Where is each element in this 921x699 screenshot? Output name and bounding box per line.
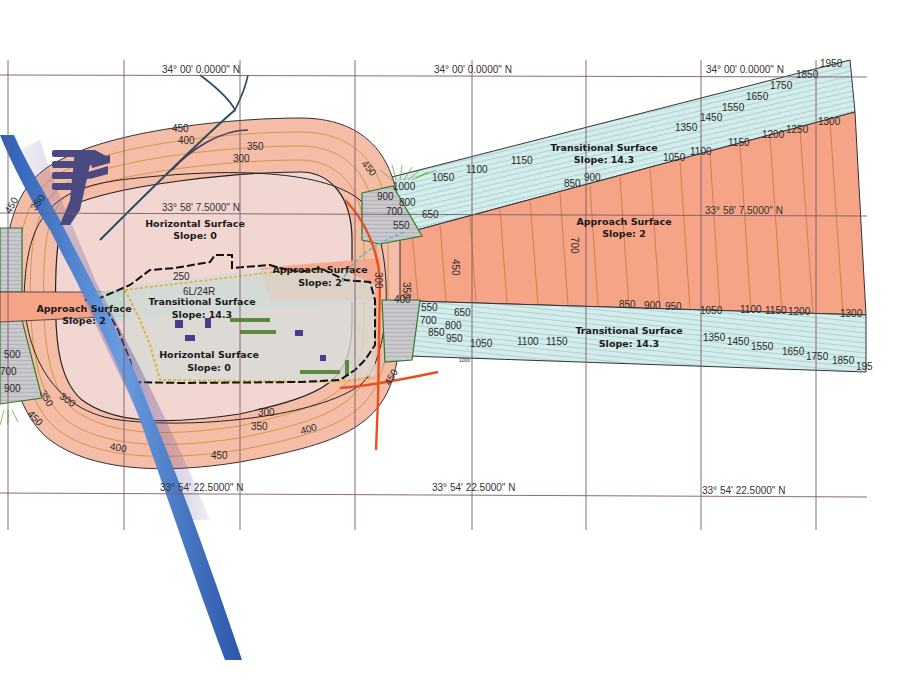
label-approach-right: Approach Surface bbox=[576, 216, 671, 227]
svg-text:700: 700 bbox=[386, 206, 403, 217]
svg-text:300: 300 bbox=[373, 272, 384, 289]
svg-text:250: 250 bbox=[173, 271, 190, 282]
svg-text:1150: 1150 bbox=[511, 155, 533, 166]
svg-text:1250: 1250 bbox=[786, 124, 809, 135]
svg-text:650: 650 bbox=[454, 307, 471, 318]
svg-text:900: 900 bbox=[4, 383, 21, 394]
svg-text:1550: 1550 bbox=[751, 341, 774, 352]
svg-text:1050: 1050 bbox=[700, 305, 723, 316]
road-north bbox=[200, 75, 248, 110]
label-horizontal-top-slope: Slope: 0 bbox=[173, 230, 217, 241]
label-approach-center: Approach Surface bbox=[272, 264, 367, 275]
svg-text:950: 950 bbox=[665, 301, 682, 312]
svg-text:550: 550 bbox=[421, 302, 438, 313]
svg-text:450: 450 bbox=[211, 450, 228, 461]
svg-text:1100: 1100 bbox=[466, 164, 488, 175]
grid-label-top-2: 34° 00' 0.0000" N bbox=[434, 64, 512, 75]
label-approach-left-slope: Slope: 2 bbox=[62, 315, 106, 326]
svg-text:1100: 1100 bbox=[740, 304, 762, 315]
svg-text:1650: 1650 bbox=[782, 346, 805, 357]
svg-text:1150: 1150 bbox=[765, 305, 787, 316]
grid-label-bottom-1: 33° 54' 22.5000" N bbox=[160, 482, 243, 493]
transitional-gray-left-upper bbox=[0, 228, 22, 292]
svg-text:650: 650 bbox=[422, 209, 439, 220]
svg-text:700: 700 bbox=[0, 366, 17, 377]
svg-text:1050: 1050 bbox=[432, 172, 455, 183]
label-transitional-lower-right-slope: Slope: 14.3 bbox=[599, 338, 659, 349]
label-transitional-upper-right-slope: Slope: 14.3 bbox=[574, 154, 634, 165]
label-approach-center-slope: Slope: 2 bbox=[298, 277, 342, 288]
svg-text:900: 900 bbox=[377, 191, 394, 202]
svg-text:195: 195 bbox=[856, 361, 873, 372]
svg-text:1750: 1750 bbox=[806, 351, 829, 362]
svg-text:1300: 1300 bbox=[818, 116, 841, 127]
label-transitional-center-slope: Slope: 14.3 bbox=[172, 309, 232, 320]
svg-text:1350: 1350 bbox=[703, 332, 726, 343]
label-transitional-lower-right: Transitional Surface bbox=[575, 325, 682, 336]
svg-text:1450: 1450 bbox=[700, 112, 723, 123]
svg-text:500: 500 bbox=[4, 349, 21, 360]
grid-label-bottom-2: 33° 54' 22.5000" N bbox=[432, 482, 515, 493]
svg-text:1950: 1950 bbox=[820, 58, 843, 69]
svg-text:550: 550 bbox=[393, 220, 410, 231]
svg-text:1550: 1550 bbox=[722, 102, 745, 113]
svg-text:900: 900 bbox=[584, 172, 601, 183]
svg-text:1200: 1200 bbox=[762, 129, 785, 140]
svg-text:1150: 1150 bbox=[728, 137, 750, 148]
airspace-surfaces-map: 34° 00' 0.0000" N 34° 00' 0.0000" N 34° … bbox=[0, 0, 921, 699]
grid-label-top-1: 34° 00' 0.0000" N bbox=[162, 64, 240, 75]
svg-text:850: 850 bbox=[564, 178, 581, 189]
svg-text:400: 400 bbox=[394, 294, 411, 305]
label-horizontal-bottom-slope: Slope: 0 bbox=[187, 362, 231, 373]
svg-text:1100: 1100 bbox=[690, 146, 712, 157]
svg-text:1300: 1300 bbox=[840, 308, 863, 319]
runway-label: 6L/24R bbox=[183, 286, 215, 297]
label-approach-right-slope: Slope: 2 bbox=[602, 228, 646, 239]
svg-text:1050: 1050 bbox=[470, 338, 493, 349]
svg-text:1150: 1150 bbox=[546, 336, 568, 347]
svg-text:1000: 1000 bbox=[459, 357, 470, 363]
svg-text:350: 350 bbox=[247, 141, 264, 152]
svg-text:900: 900 bbox=[644, 300, 661, 311]
svg-text:400: 400 bbox=[178, 135, 195, 146]
svg-text:1050: 1050 bbox=[663, 152, 686, 163]
svg-text:1100: 1100 bbox=[517, 336, 539, 347]
label-approach-left: Approach Surface bbox=[36, 303, 131, 314]
svg-text:450: 450 bbox=[172, 123, 189, 134]
svg-text:450: 450 bbox=[450, 259, 461, 276]
svg-text:1200: 1200 bbox=[788, 306, 811, 317]
label-horizontal-bottom: Horizontal Surface bbox=[159, 349, 259, 360]
svg-text:300: 300 bbox=[258, 407, 275, 418]
svg-text:950: 950 bbox=[446, 333, 463, 344]
svg-text:1450: 1450 bbox=[727, 336, 750, 347]
label-horizontal-top: Horizontal Surface bbox=[145, 218, 245, 229]
svg-text:800: 800 bbox=[445, 320, 462, 331]
grid-label-mid-2: 33° 58' 7.5000" N bbox=[705, 205, 783, 216]
svg-text:1650: 1650 bbox=[746, 91, 769, 102]
svg-text:700: 700 bbox=[420, 315, 437, 326]
svg-text:850: 850 bbox=[428, 327, 445, 338]
svg-text:1350: 1350 bbox=[675, 122, 698, 133]
svg-text:1850: 1850 bbox=[796, 69, 819, 80]
svg-text:1000: 1000 bbox=[393, 181, 416, 192]
svg-text:300: 300 bbox=[233, 153, 250, 164]
label-transitional-upper-right: Transitional Surface bbox=[550, 142, 657, 153]
svg-text:700: 700 bbox=[569, 237, 580, 254]
svg-text:350: 350 bbox=[251, 421, 268, 432]
grid-label-mid-1: 33° 58' 7.5000" N bbox=[162, 202, 240, 213]
svg-text:850: 850 bbox=[619, 299, 636, 310]
label-transitional-center: Transitional Surface bbox=[148, 296, 255, 307]
grid-label-bottom-3: 33° 54' 22.5000" N bbox=[702, 485, 785, 496]
grid-label-top-3: 34° 00' 0.0000" N bbox=[706, 64, 784, 75]
svg-text:1850: 1850 bbox=[832, 355, 855, 366]
svg-text:1750: 1750 bbox=[770, 80, 793, 91]
